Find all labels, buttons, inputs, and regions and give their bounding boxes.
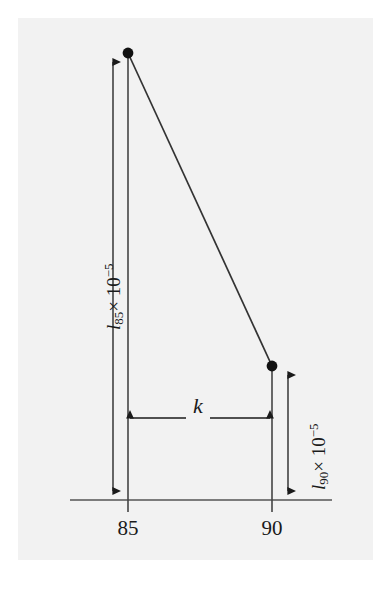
gap-label-k: k (186, 393, 210, 419)
data-point-90 (267, 361, 278, 372)
figure-root: l85× 10−5 l90× 10−5 k 85 90 (0, 0, 391, 594)
axis-label-l85: l85× 10−5 (101, 264, 127, 330)
label-l90-subscript: 90 (316, 472, 331, 485)
data-line-segment (128, 53, 272, 366)
label-l85-exponent: −5 (101, 264, 116, 278)
label-l85-times: × 10 (103, 277, 124, 311)
plot-canvas (0, 0, 391, 594)
label-l90-symbol: l (308, 485, 329, 490)
label-l90-exponent: −5 (306, 424, 321, 438)
label-l85-symbol: l (103, 325, 124, 330)
label-l90-times: × 10 (308, 437, 329, 471)
label-l85-subscript: 85 (111, 312, 126, 325)
axis-label-l90: l90× 10−5 (306, 424, 332, 490)
data-point-85 (123, 48, 134, 59)
x-tick-label-85: 85 (103, 516, 153, 541)
x-tick-label-90: 90 (247, 516, 297, 541)
